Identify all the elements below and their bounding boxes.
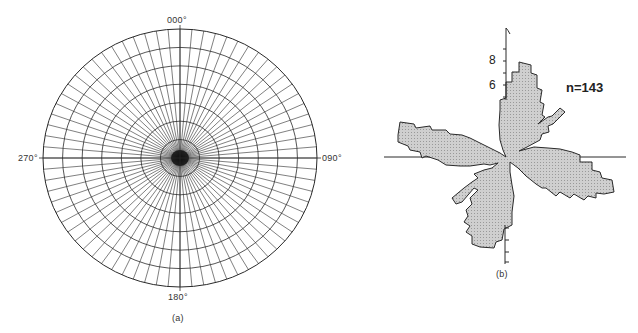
grid-spoke [145, 33, 180, 158]
grid-spoke [168, 29, 180, 158]
grid-spoke [48, 158, 180, 191]
panel-b-label: (b) [496, 269, 508, 279]
grid-spoke [180, 125, 312, 158]
grid-spoke [56, 158, 180, 213]
polar-equal-area-net [0, 0, 638, 333]
grid-spoke [48, 125, 180, 158]
rose-tick-label-8: 8 [489, 53, 496, 67]
grid-spoke [180, 158, 312, 191]
grid-spoke [168, 158, 180, 287]
grid-spoke [180, 158, 192, 287]
grid-spoke [180, 158, 316, 169]
south-label: 180° [168, 292, 188, 302]
north-arrow-icon [506, 28, 510, 34]
grid-spoke [180, 158, 215, 283]
grid-spoke [56, 103, 180, 158]
grid-spoke [180, 41, 238, 158]
sample-count-label: n=143 [566, 80, 603, 95]
grid-spoke [180, 147, 316, 158]
rose-tick-label-6: 6 [489, 78, 496, 92]
grid-spoke [44, 147, 180, 158]
west-label: 270° [18, 153, 38, 163]
grid-spoke [180, 158, 238, 275]
grid-spoke [180, 103, 304, 158]
grid-spoke [122, 158, 180, 275]
grid-spoke [180, 33, 215, 158]
grid-spoke [180, 29, 192, 158]
panel-a-label: (a) [172, 313, 184, 323]
grid-spoke [122, 41, 180, 158]
north-label: 000° [167, 15, 187, 25]
grid-spoke [44, 158, 180, 169]
grid-spoke [180, 158, 304, 213]
east-label: 090° [322, 153, 342, 163]
grid-spoke [145, 158, 180, 283]
